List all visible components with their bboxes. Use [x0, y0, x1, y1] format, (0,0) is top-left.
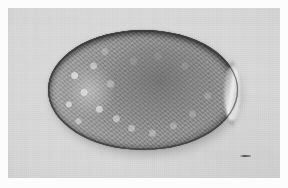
scale-mark-artifact [240, 155, 251, 157]
microscope-field [8, 8, 280, 178]
specimen-ovum [48, 30, 238, 150]
ovum-outline [48, 30, 238, 150]
micrograph-canvas [0, 0, 288, 188]
